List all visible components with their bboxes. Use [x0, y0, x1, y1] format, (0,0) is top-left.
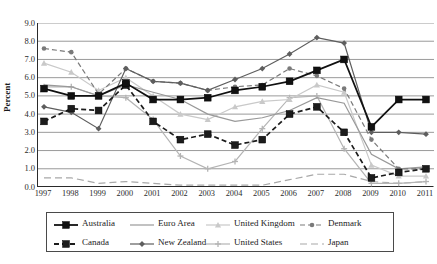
chart-container: Percent 9.08.07.06.05.04.03.02.01.00.0 1…: [0, 0, 437, 264]
data-point-marker: [313, 103, 320, 110]
legend-label: United Kingdom: [234, 218, 295, 228]
data-point-marker: [310, 223, 315, 228]
x-tick-label: 2009: [362, 189, 379, 198]
data-point-marker: [232, 87, 239, 94]
data-point-marker: [69, 50, 74, 55]
x-tick-label: 2010: [389, 189, 406, 198]
data-point-marker: [63, 222, 70, 229]
legend-label: Japan: [328, 237, 349, 247]
y-tick-label: 3.0: [9, 128, 35, 137]
data-point-marker: [395, 96, 402, 103]
y-tick-label: 2.0: [9, 146, 35, 155]
y-tick-label: 1.0: [9, 164, 35, 173]
x-tick-label: 1999: [89, 189, 106, 198]
data-point-marker: [41, 85, 48, 92]
data-point-marker: [205, 88, 211, 94]
data-point-marker: [232, 142, 239, 149]
legend-label: Euro Area: [158, 218, 195, 228]
x-tick-label: 2004: [226, 189, 243, 198]
data-point-marker: [68, 105, 75, 112]
legend-label: Australia: [82, 218, 115, 228]
x-tick-label: 2003: [198, 189, 215, 198]
data-point-marker: [68, 92, 75, 99]
y-tick-label: 4.0: [9, 110, 35, 119]
y-axis-tick-labels: 9.08.07.06.05.04.03.02.01.00.0: [5, 0, 35, 200]
x-tick-label: 2006: [280, 189, 297, 198]
series-australia: [41, 56, 430, 130]
x-tick-label: 1997: [35, 189, 52, 198]
data-point-marker: [423, 179, 429, 185]
data-point-marker: [368, 174, 375, 181]
legend-swatch: [299, 236, 325, 248]
data-point-marker: [341, 56, 348, 63]
data-point-marker: [369, 137, 374, 142]
legend-item-united-states[interactable]: United States: [205, 232, 282, 252]
x-tick-label: 2008: [335, 189, 352, 198]
x-tick-label: 2005: [253, 189, 270, 198]
y-tick-label: 9.0: [9, 19, 35, 28]
data-point-marker: [41, 118, 48, 125]
data-point-marker: [259, 136, 266, 143]
legend-swatch: [53, 236, 79, 248]
x-tick-label: 2001: [144, 189, 161, 198]
data-point-marker: [41, 60, 47, 66]
data-point-marker: [423, 96, 430, 103]
data-point-marker: [315, 74, 320, 79]
legend-label: Denmark: [328, 218, 362, 228]
data-point-marker: [287, 66, 292, 71]
x-tick-label: 2007: [308, 189, 325, 198]
y-tick-label: 7.0: [9, 55, 35, 64]
data-point-marker: [313, 67, 320, 74]
y-tick-label: 6.0: [9, 73, 35, 82]
legend-swatch: [129, 217, 155, 229]
data-point-marker: [314, 82, 320, 88]
chart-lines: [38, 23, 434, 187]
x-tick-label: 2000: [117, 189, 134, 198]
data-point-marker: [314, 35, 320, 41]
legend-swatch: [205, 236, 231, 248]
data-point-marker: [177, 96, 184, 103]
legend-swatch: [129, 236, 155, 248]
data-point-marker: [341, 129, 348, 136]
legend-item-new-zealand[interactable]: New Zealand: [129, 232, 206, 252]
x-tick-label: 2002: [171, 189, 188, 198]
x-tick-label: 2011: [417, 189, 433, 198]
data-point-marker: [215, 241, 221, 247]
y-tick-label: 8.0: [9, 37, 35, 46]
legend-item-euro-area[interactable]: Euro Area: [129, 213, 195, 233]
data-point-marker: [150, 78, 156, 84]
data-point-marker: [395, 169, 402, 176]
data-point-marker: [259, 83, 266, 90]
data-point-marker: [204, 131, 211, 138]
data-point-marker: [42, 46, 47, 51]
data-point-marker: [205, 166, 211, 172]
legend-swatch: [53, 217, 79, 229]
data-point-marker: [178, 80, 184, 86]
data-point-marker: [122, 80, 129, 87]
legend-item-denmark[interactable]: Denmark: [299, 213, 362, 233]
data-point-marker: [396, 180, 402, 186]
legend-swatch: [299, 217, 325, 229]
data-point-marker: [286, 78, 293, 85]
legend-label: New Zealand: [158, 237, 206, 247]
legend-item-australia[interactable]: Australia: [53, 213, 115, 233]
data-point-marker: [41, 104, 47, 110]
data-point-marker: [63, 241, 70, 248]
legend-item-japan[interactable]: Japan: [299, 232, 349, 252]
data-point-marker: [342, 86, 347, 91]
data-point-marker: [96, 126, 102, 132]
data-point-marker: [396, 129, 402, 135]
data-point-marker: [286, 111, 293, 118]
legend-item-canada[interactable]: Canada: [53, 232, 109, 252]
data-point-marker: [95, 92, 102, 99]
data-point-marker: [150, 96, 157, 103]
data-point-marker: [423, 165, 430, 172]
y-tick-label: 0.0: [9, 183, 35, 192]
data-point-marker: [150, 118, 157, 125]
x-tick-label: 1998: [62, 189, 79, 198]
y-tick-label: 5.0: [9, 91, 35, 100]
chart-legend: AustraliaEuro AreaUnited KingdomDenmarkC…: [46, 212, 394, 252]
legend-item-united-kingdom[interactable]: United Kingdom: [205, 213, 295, 233]
data-point-marker: [368, 123, 375, 130]
data-point-marker: [204, 94, 211, 101]
